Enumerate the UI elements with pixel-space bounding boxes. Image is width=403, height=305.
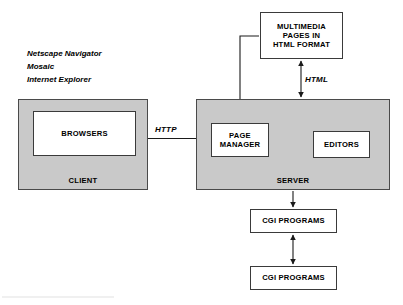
browsers-box-label: BROWSERS	[59, 129, 109, 138]
html-edge-label: HTML	[305, 76, 328, 84]
multimedia-pages-box: MULTIMEDIA PAGES IN HTML FORMAT	[260, 12, 343, 59]
browser-example-ie: Internet Explorer	[27, 74, 102, 87]
cgi-programs-box-2: CGI PROGRAMS	[250, 266, 337, 290]
cgi-programs-box-2-label: CGI PROGRAMS	[260, 273, 327, 282]
editors-box: EDITORS	[313, 131, 370, 158]
editors-box-label: EDITORS	[322, 140, 361, 149]
server-zone-label: SERVER	[277, 177, 310, 189]
multimedia-pages-box-label: MULTIMEDIA PAGES IN HTML FORMAT	[271, 22, 332, 50]
page-manager-box-label: PAGE MANAGER	[218, 131, 263, 150]
page-manager-line-2: MANAGER	[220, 140, 261, 149]
page-manager-box: PAGE MANAGER	[211, 123, 269, 157]
architecture-diagram: Netscape Navigator Mosaic Internet Explo…	[0, 0, 403, 305]
http-edge-label: HTTP	[155, 126, 177, 134]
page-manager-line-1: PAGE	[229, 131, 251, 140]
browser-example-mosaic: Mosaic	[27, 61, 102, 74]
client-zone-label: CLIENT	[69, 177, 98, 189]
cgi-programs-box-1-label: CGI PROGRAMS	[260, 216, 327, 225]
cgi-programs-box-1: CGI PROGRAMS	[250, 209, 337, 233]
multimedia-line-1: MULTIMEDIA	[277, 22, 326, 31]
browsers-box: BROWSERS	[33, 111, 136, 156]
multimedia-line-2: PAGES IN	[283, 31, 320, 40]
browser-examples-list: Netscape Navigator Mosaic Internet Explo…	[27, 48, 102, 87]
multimedia-line-3: HTML FORMAT	[273, 40, 330, 49]
scan-artifact	[2, 296, 114, 298]
browser-example-netscape: Netscape Navigator	[27, 48, 102, 61]
